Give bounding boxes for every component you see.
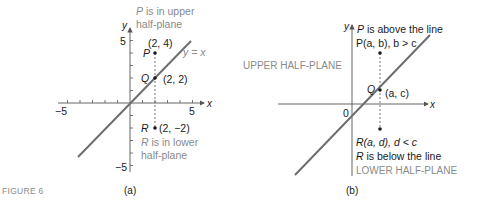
note-upper-a: P is in upper [136, 5, 195, 17]
note-p-b: P is above the line [357, 23, 443, 35]
note-lower-a-2: half-plane [141, 149, 187, 161]
label-q-a: Q [141, 72, 149, 84]
note-lower-a: R is in lower [141, 136, 199, 148]
point-q-a [153, 76, 157, 80]
figure-canvas: P is in upper half-plane y 5 (2, 4) P y … [0, 0, 479, 210]
coords-q-a: (2, 2) [163, 73, 188, 85]
origin-label-b: 0 [343, 107, 349, 119]
label-p-a: P [143, 47, 150, 59]
tick-label-yneg5-a: −5 [115, 161, 127, 173]
label-p-b: P(a, b), b > c [356, 37, 416, 49]
coords-p-a: (2, 4) [148, 37, 173, 49]
x-axis-label-a: x [206, 98, 213, 109]
lower-half-plane-label: LOWER HALF-PLANE [356, 165, 457, 176]
point-p-b [378, 51, 382, 55]
point-r-b [378, 127, 382, 131]
tick-label-xneg5-a: −5 [55, 105, 67, 117]
caption-b: (b) [346, 185, 358, 196]
tick-label-y5-a: 5 [120, 35, 126, 47]
upper-half-plane-label: UPPER HALF-PLANE [243, 60, 342, 71]
y-axis-label-a: y [121, 20, 128, 31]
label-r-a: R [141, 122, 149, 134]
note-r-b: R is below the line [356, 150, 441, 162]
point-r-a [153, 126, 157, 130]
point-q-b [378, 88, 382, 92]
panel-b: y P is above the line P(a, b), b > c UPP… [243, 21, 457, 196]
panel-a: P is in upper half-plane y 5 (2, 4) P y … [55, 5, 213, 196]
coords-r-a: (2, −2) [159, 122, 190, 134]
note-upper-a-2: half-plane [136, 18, 182, 30]
coords-q-b: (a, c) [385, 87, 409, 99]
y-axis-label-b: y [343, 21, 350, 32]
x-axis-label-b: x [429, 99, 436, 110]
line-label-a: y = x [182, 46, 206, 58]
figure-label: FIGURE 6 [2, 186, 44, 196]
label-r-b: R(a, d), d < c [356, 136, 418, 148]
point-p-a [153, 51, 157, 55]
tick-label-x5-a: 5 [189, 105, 195, 117]
label-q-b: Q [367, 83, 375, 95]
caption-a: (a) [124, 185, 136, 196]
